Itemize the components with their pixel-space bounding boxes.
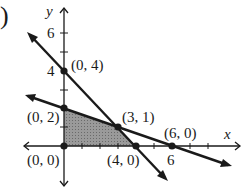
label-3-1: (3, 1) bbox=[122, 109, 155, 126]
point-0-0 bbox=[60, 142, 67, 149]
label-0-0: (0, 0) bbox=[27, 152, 60, 169]
point-3-1 bbox=[114, 123, 121, 130]
label-6-0: (6, 0) bbox=[164, 125, 197, 142]
y-axis-label: y bbox=[44, 3, 53, 19]
point-4-0 bbox=[132, 142, 139, 149]
point-0-4 bbox=[60, 67, 67, 74]
x-axis-label: x bbox=[223, 126, 231, 142]
line2-left-arrow-icon bbox=[25, 94, 36, 102]
label-4-0: (4, 0) bbox=[107, 152, 140, 169]
part-label: ) bbox=[0, 1, 9, 30]
point-0-2 bbox=[60, 104, 67, 111]
feasible-region-graph: ) y x 6 4 6 bbox=[0, 0, 245, 190]
y-tick-label-6: 6 bbox=[47, 25, 55, 41]
line2-right-arrow-icon bbox=[220, 159, 232, 167]
point-6-0 bbox=[168, 142, 175, 149]
x-tick-label-6: 6 bbox=[167, 152, 175, 168]
y-axis bbox=[60, 8, 68, 186]
y-tick-label-4: 4 bbox=[47, 63, 55, 79]
label-0-4: (0, 4) bbox=[71, 57, 104, 74]
label-0-2: (0, 2) bbox=[27, 109, 60, 126]
